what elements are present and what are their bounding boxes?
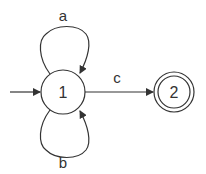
transition-loop-a <box>40 27 88 75</box>
state-1[interactable]: 1 <box>41 70 85 114</box>
transition-loop-b <box>40 110 88 158</box>
automaton-diagram: 1 a b c 2 <box>0 0 206 174</box>
state-1-label: 1 <box>59 84 68 101</box>
transition-label-c: c <box>113 69 121 86</box>
state-2[interactable]: 2 <box>154 72 194 112</box>
transition-label-b: b <box>59 154 67 171</box>
state-2-label: 2 <box>170 84 179 101</box>
transition-label-a: a <box>59 7 68 24</box>
